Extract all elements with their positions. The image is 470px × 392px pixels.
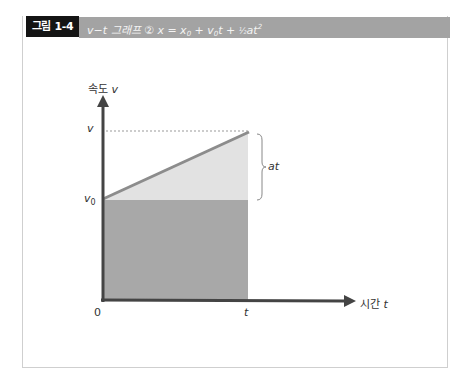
y-axis-label-text: 속도 — [88, 83, 112, 96]
x-axis — [101, 300, 346, 301]
v-tick-label: v — [87, 122, 94, 135]
y-axis-label: 속도 v — [88, 80, 118, 96]
y-axis-var: v — [112, 83, 119, 96]
v0-tick-label: v0 — [84, 192, 96, 207]
t-tick-label: t — [244, 306, 248, 319]
displacement-rect-area — [103, 200, 248, 300]
origin-label: 0 — [94, 306, 101, 319]
vt-graph — [0, 0, 470, 392]
x-axis-label-text: 시간 — [360, 298, 384, 311]
x-axis-var: t — [384, 298, 388, 311]
v0-sub: 0 — [91, 198, 96, 207]
y-axis-arrow-icon — [97, 95, 109, 107]
at-label: at — [268, 160, 279, 173]
at-brace — [257, 134, 266, 200]
x-axis-label: 시간 t — [360, 295, 388, 311]
x-axis-arrow-icon — [344, 295, 356, 307]
